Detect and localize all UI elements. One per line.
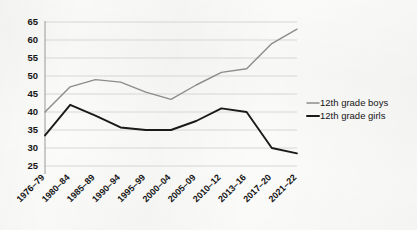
y-tick-label: 65 <box>27 16 38 27</box>
chart-legend: 12th grade boys12th grade girls <box>307 97 388 121</box>
chart-canvas: 253035404550556065 1976–791980–841985–89… <box>0 0 417 230</box>
y-tick-label: 35 <box>27 124 38 135</box>
y-tick-label: 40 <box>27 106 38 117</box>
line-chart: 253035404550556065 1976–791980–841985–89… <box>0 0 417 230</box>
legend-label: 12th grade boys <box>320 97 388 108</box>
data-series <box>45 29 297 153</box>
series-line-12th-grade-boys <box>45 29 297 112</box>
y-tick-label: 55 <box>27 52 38 63</box>
legend-label: 12th grade girls <box>320 110 386 121</box>
x-tick-label: 2021–22 <box>267 172 299 204</box>
y-tick-label: 25 <box>27 160 38 171</box>
x-axis: 1976–791980–841985–891990–941995–992000–… <box>15 172 299 204</box>
y-axis: 253035404550556065 <box>27 16 45 174</box>
y-tick-label: 60 <box>27 34 38 45</box>
y-tick-label: 30 <box>27 142 38 153</box>
y-tick-label: 50 <box>27 70 38 81</box>
y-tick-label: 45 <box>27 88 38 99</box>
gridlines <box>45 22 297 166</box>
